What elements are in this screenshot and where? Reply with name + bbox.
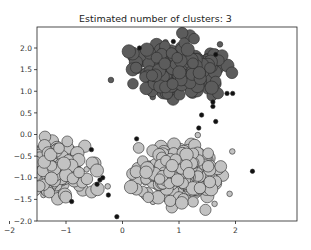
data-point: [204, 176, 216, 188]
data-point: [165, 195, 176, 206]
data-point: [0, 181, 6, 193]
data-point: [211, 100, 215, 104]
data-point: [0, 151, 3, 157]
data-point: [137, 46, 141, 50]
data-point: [217, 42, 223, 48]
data-point: [172, 52, 183, 63]
data-point: [214, 119, 218, 123]
data-point: [183, 167, 195, 179]
data-point: [154, 174, 164, 184]
data-point: [143, 192, 154, 203]
data-point: [25, 183, 36, 194]
data-point: [24, 208, 28, 212]
data-point: [30, 210, 34, 214]
data-point: [130, 62, 141, 73]
data-point: [74, 167, 85, 178]
data-point: [215, 161, 227, 173]
data-point: [106, 193, 110, 197]
data-point: [54, 143, 65, 154]
x-axis: −2−1012: [4, 221, 238, 235]
data-point: [146, 70, 157, 81]
data-point: [11, 162, 22, 173]
data-point: [45, 172, 58, 185]
y-axis: −2.0−1.5−1.0−0.50.00.51.01.52.0: [14, 44, 37, 226]
data-point: [173, 66, 186, 79]
data-point: [171, 174, 184, 187]
data-point: [25, 162, 31, 168]
data-point: [69, 199, 73, 203]
data-point: [89, 147, 93, 151]
data-point: [205, 81, 218, 94]
data-point: [90, 164, 103, 177]
data-point: [200, 204, 211, 215]
data-point: [95, 182, 99, 186]
data-point: [128, 78, 139, 89]
y-tick-label: 2.0: [20, 44, 32, 53]
data-point: [134, 137, 138, 141]
data-point: [227, 191, 233, 197]
data-point: [225, 91, 229, 95]
data-point: [7, 159, 20, 172]
data-point: [0, 142, 12, 154]
data-point: [122, 45, 135, 58]
data-point: [167, 79, 178, 90]
y-tick-label: −1.5: [14, 195, 32, 204]
data-point: [197, 126, 201, 130]
data-point: [171, 39, 175, 43]
data-point: [159, 58, 171, 70]
data-points: [0, 27, 255, 219]
data-point: [0, 185, 10, 197]
data-point: [0, 164, 13, 177]
data-point: [229, 149, 235, 155]
data-point: [212, 201, 218, 207]
data-point: [230, 91, 234, 95]
data-point: [26, 162, 38, 174]
scatter-plot: −2−1012 −2.0−1.5−1.0−0.50.00.51.01.52.0: [0, 0, 311, 250]
data-point: [115, 214, 119, 218]
data-point: [195, 132, 201, 138]
data-point: [124, 180, 137, 193]
data-point: [199, 113, 203, 117]
data-point: [226, 67, 238, 79]
data-point: [108, 77, 114, 83]
data-point: [3, 141, 14, 152]
data-point: [16, 183, 29, 196]
data-point: [188, 197, 199, 208]
y-tick-label: −1.0: [14, 173, 32, 182]
x-tick-label: 1: [177, 226, 182, 235]
data-point: [175, 197, 188, 210]
x-tick-label: 2: [233, 226, 238, 235]
data-point: [202, 161, 214, 173]
x-tick-label: 0: [120, 226, 125, 235]
x-tick-label: −2: [4, 226, 15, 235]
y-tick-label: 0.5: [20, 109, 32, 118]
y-tick-label: 1.0: [20, 87, 32, 96]
data-point: [250, 169, 254, 173]
data-point: [166, 159, 178, 171]
data-point: [57, 157, 70, 170]
data-point: [17, 163, 28, 174]
data-point: [188, 58, 199, 69]
data-point: [189, 33, 200, 44]
x-tick-label: −1: [60, 226, 71, 235]
data-point: [98, 178, 102, 182]
data-point: [140, 43, 153, 56]
data-point: [176, 27, 187, 38]
data-point: [214, 52, 218, 56]
data-point: [13, 182, 25, 194]
data-point: [181, 43, 194, 56]
y-tick-label: 1.5: [20, 65, 32, 74]
data-point: [203, 148, 214, 159]
data-point: [194, 182, 206, 194]
y-tick-label: −2.0: [14, 217, 32, 226]
y-tick-label: 0.0: [20, 130, 32, 139]
data-point: [140, 166, 153, 179]
data-point: [19, 138, 31, 150]
data-point: [133, 143, 144, 154]
data-point: [34, 181, 45, 192]
y-tick-label: −0.5: [14, 152, 32, 161]
data-point: [17, 161, 29, 173]
data-point: [205, 63, 216, 74]
data-point: [105, 184, 111, 190]
data-point: [211, 104, 215, 108]
